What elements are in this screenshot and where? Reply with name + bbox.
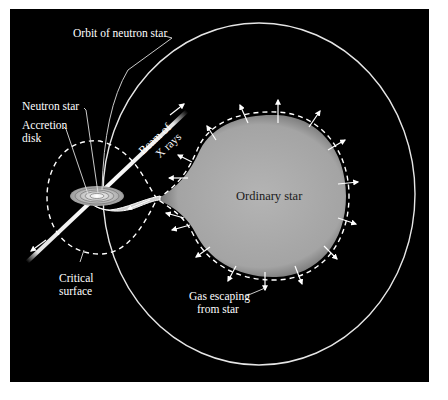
neutron-star (95, 194, 98, 197)
label-ordinary-star: Ordinary star (236, 189, 303, 203)
label-critical-1: Critical (59, 272, 94, 284)
label-neutron-star: Neutron star (22, 100, 79, 112)
label-gas-2: from star (197, 303, 239, 315)
x-ray-binary-diagram: Orbit of neutron star Neutron star Accre… (0, 0, 448, 400)
label-critical-2: surface (59, 285, 92, 297)
label-accretion-1: Accretion (22, 119, 68, 131)
label-accretion-2: disk (22, 132, 41, 144)
label-orbit: Orbit of neutron star (73, 27, 167, 39)
label-gas-1: Gas escaping (189, 290, 250, 303)
